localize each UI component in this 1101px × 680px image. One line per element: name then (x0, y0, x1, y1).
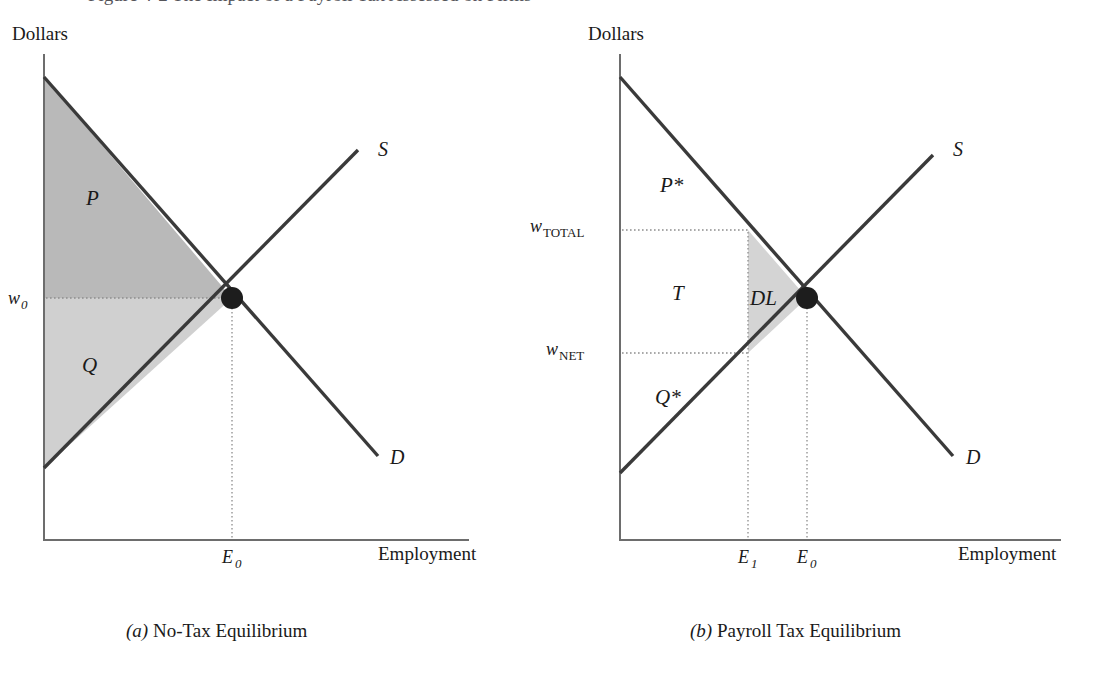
panel-b-equilibrium-dot (796, 287, 818, 309)
panel-a-region-P-label: P (85, 186, 99, 210)
panel-a-tick-E0: E 0 (221, 547, 242, 571)
panel-b-tick-E1-main: E (737, 547, 749, 567)
panel-a-caption-letter: (a) (126, 620, 148, 641)
panel-b-demand-label: D (965, 446, 981, 468)
panel-b: Dollars Employment S D P* T Q* DL w TOTA… (530, 23, 1060, 571)
panel-b-tick-E0-sub: 0 (810, 556, 817, 571)
panel-a-tick-w0-main: w (8, 288, 20, 308)
panel-b-x-axis-label: Employment (958, 543, 1057, 564)
panel-a-region-Q-label: Q (82, 353, 97, 377)
panel-b-region-Pstar-label: P* (659, 173, 684, 197)
panel-b-caption: (b) Payroll Tax Equilibrium (690, 620, 901, 642)
panel-b-tick-wtotal: w TOTAL (530, 216, 584, 240)
panel-b-tick-E1-sub: 1 (751, 556, 758, 571)
panel-b-y-axis-label: Dollars (588, 23, 644, 44)
panel-a-tick-w0: w 0 (8, 288, 28, 312)
panel-b-region-Qstar-label: Q* (655, 385, 681, 409)
panel-b-tick-E0-main: E (796, 547, 808, 567)
panel-a-tick-E0-main: E (221, 547, 233, 567)
panel-a-y-axis-label: Dollars (12, 23, 68, 44)
panel-a: Dollars Employment S D P Q w 0 E 0 (8, 23, 477, 571)
region-Q-shape (44, 298, 232, 468)
panel-b-region-T-label: T (672, 281, 685, 305)
panel-a-equilibrium-dot (221, 287, 243, 309)
panel-b-tick-E1: E 1 (737, 547, 758, 571)
panel-b-tick-wnet-main: w (546, 339, 558, 359)
panel-a-demand-label: D (389, 446, 405, 468)
panel-b-supply-curve (620, 155, 933, 473)
figure-root: Figure 4-2 The Impact of a Payroll Tax A… (0, 0, 1101, 680)
panel-a-supply-label: S (378, 138, 388, 160)
panel-a-x-axis-label: Employment (378, 543, 477, 564)
panel-b-tick-wnet: w NET (546, 339, 584, 363)
panel-b-tick-wtotal-sub: TOTAL (543, 225, 584, 240)
panel-a-caption: (a) No-Tax Equilibrium (126, 620, 307, 642)
figure-svg: Dollars Employment S D P Q w 0 E 0 (0, 0, 1101, 680)
panel-b-tick-wtotal-main: w (530, 216, 542, 236)
panel-b-tick-E0: E 0 (796, 547, 817, 571)
panel-a-tick-w0-sub: 0 (21, 297, 28, 312)
panel-b-region-DL-label: DL (749, 286, 777, 310)
panel-b-caption-letter: (b) (690, 620, 712, 641)
panel-a-caption-text: No-Tax Equilibrium (153, 620, 307, 641)
panel-b-supply-label: S (953, 138, 963, 160)
panel-b-tick-wnet-sub: NET (559, 348, 584, 363)
panel-b-caption-text: Payroll Tax Equilibrium (717, 620, 901, 641)
panel-a-tick-E0-sub: 0 (235, 556, 242, 571)
